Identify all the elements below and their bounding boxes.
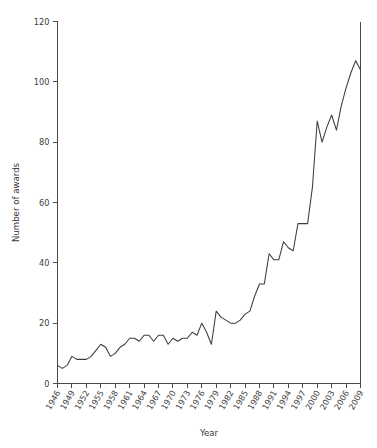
chart-figure: 020406080100120 194619491952195519581961…	[0, 0, 377, 448]
y-tick-label: 0	[44, 379, 49, 389]
y-tick-label: 80	[39, 137, 49, 147]
y-axis-tick-labels: 020406080100120	[34, 17, 50, 389]
y-tick-label: 100	[34, 77, 50, 87]
x-axis-ticks	[58, 384, 361, 389]
y-axis-title: Number of awards	[11, 162, 21, 242]
x-axis-tick-labels: 1946194919521955195819611964196719701973…	[43, 389, 365, 412]
x-axis-title: Year	[199, 428, 219, 438]
y-tick-label: 60	[39, 198, 49, 208]
y-tick-label: 20	[39, 318, 49, 328]
data-series-line	[58, 61, 361, 369]
x-tick-label: 2009	[346, 389, 365, 412]
line-chart: 020406080100120 194619491952195519581961…	[0, 0, 377, 448]
y-axis-ticks	[53, 22, 58, 384]
y-tick-label: 40	[39, 258, 49, 268]
y-tick-label: 120	[34, 17, 50, 27]
